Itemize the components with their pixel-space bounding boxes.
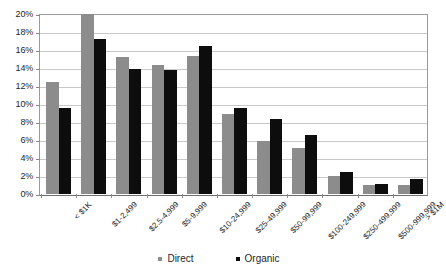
- legend-swatch-icon: [158, 257, 162, 261]
- plot-wrapper: 0%2%4%6%8%10%12%14%16%18%20% < $1K$1-2,4…: [0, 0, 438, 205]
- bar-group: [147, 15, 182, 194]
- bar-group: [76, 15, 111, 194]
- bar-direct: [46, 82, 59, 195]
- bar-direct: [363, 185, 376, 194]
- y-axis-tick-mark: [36, 69, 40, 70]
- y-axis-tick-mark: [36, 177, 40, 178]
- y-axis-tick-label: 4%: [20, 154, 33, 163]
- y-axis-tick-label: 2%: [20, 172, 33, 181]
- x-axis-tick-label: $5-9,999: [180, 200, 209, 229]
- bar-direct: [187, 56, 200, 194]
- x-axis-tick-labels: < $1K$1-2,499$2.5-4,999$5-9,999$10-24,99…: [39, 198, 428, 246]
- bar-organic: [270, 119, 283, 194]
- bar-group: [322, 15, 357, 194]
- bar-organic: [94, 39, 107, 194]
- chart-legend: DirectOrganic: [0, 248, 438, 270]
- bar-direct: [222, 114, 235, 194]
- bar-direct: [292, 148, 305, 194]
- bar-organic: [199, 46, 212, 194]
- y-axis-tick-mark: [36, 87, 40, 88]
- bar-group: [358, 15, 393, 194]
- bars-layer: [41, 15, 426, 194]
- y-axis-tick-label: 10%: [16, 100, 33, 109]
- bar-organic: [340, 172, 353, 194]
- y-axis-tick-label: 14%: [16, 64, 33, 73]
- bar-direct: [257, 141, 270, 194]
- y-axis-tick-mark: [36, 15, 40, 16]
- bar-group: [111, 15, 146, 194]
- y-axis-tick-mark: [36, 105, 40, 106]
- bar-group: [393, 15, 428, 194]
- bar-organic: [410, 179, 423, 194]
- bar-organic: [129, 69, 142, 194]
- y-axis-tick-mark: [36, 141, 40, 142]
- y-axis-tick-mark: [36, 195, 40, 196]
- y-axis-tick-label: 16%: [16, 46, 33, 55]
- bar-direct: [116, 57, 129, 194]
- x-axis-tick-label: $1-2,499: [110, 200, 139, 229]
- y-axis-tick-mark: [36, 51, 40, 52]
- bar-group: [182, 15, 217, 194]
- y-axis-tick-mark: [36, 123, 40, 124]
- x-axis-tick-label: $50-99,999: [289, 200, 324, 235]
- legend-item-direct[interactable]: Direct: [158, 254, 193, 264]
- bar-organic: [234, 108, 247, 194]
- bar-organic: [375, 184, 388, 194]
- plot-area: [39, 14, 428, 196]
- bar-direct: [328, 176, 341, 194]
- bar-direct: [152, 65, 165, 194]
- bar-organic: [59, 108, 72, 194]
- bar-group: [217, 15, 252, 194]
- bar-organic: [305, 135, 318, 194]
- bar-group: [287, 15, 322, 194]
- bar-organic: [164, 70, 177, 194]
- legend-item-organic[interactable]: Organic: [236, 254, 280, 264]
- legend-label: Direct: [167, 254, 193, 264]
- x-axis-tick-label: $2.5-4,999: [147, 200, 180, 233]
- y-axis-tick-mark: [36, 33, 40, 34]
- y-axis-tick-label: 12%: [16, 82, 33, 91]
- bar-direct: [398, 185, 411, 194]
- x-axis-tick-label: $25-49,999: [253, 200, 288, 235]
- y-axis-tick-label: 18%: [16, 28, 33, 37]
- y-axis-tick-label: 8%: [20, 118, 33, 127]
- y-axis-tick-labels: 0%2%4%6%8%10%12%14%16%18%20%: [0, 8, 36, 198]
- y-axis-tick-mark: [36, 159, 40, 160]
- x-axis-tick-label: < $1K: [72, 200, 93, 221]
- bar-direct: [81, 14, 94, 194]
- bar-group: [252, 15, 287, 194]
- y-axis-tick-label: 0%: [20, 190, 33, 199]
- legend-label: Organic: [245, 254, 280, 264]
- y-axis-tick-label: 20%: [16, 10, 33, 19]
- x-axis-tick-label: $10-24,999: [218, 200, 253, 235]
- y-axis-tick-label: 6%: [20, 136, 33, 145]
- bar-group: [41, 15, 76, 194]
- legend-swatch-icon: [236, 257, 240, 261]
